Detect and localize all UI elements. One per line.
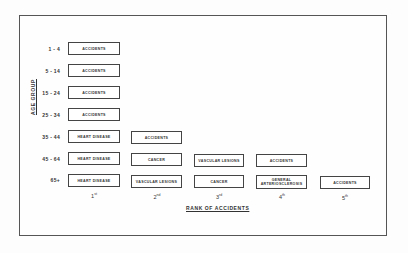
cause-box: ACCIDENTS	[68, 86, 120, 99]
x-axis-title: RANK OF ACCIDENTS	[186, 205, 249, 211]
cause-box: CANCER	[131, 153, 182, 166]
cause-box: ACCIDENTS	[68, 64, 120, 77]
cause-box: CANCER	[194, 175, 244, 188]
cause-box: ACCIDENTS	[131, 131, 182, 144]
cause-box: ACCIDENTS	[68, 42, 120, 55]
cause-box: HEART DISEASE	[68, 174, 120, 187]
rank-label: 3rd	[209, 193, 229, 200]
age-label: 65+	[20, 177, 60, 183]
age-label: 15 - 24	[20, 90, 60, 96]
cause-box: GENERAL ARTERIOSCLEROSIS	[256, 175, 307, 189]
rank-label: 2nd	[147, 193, 167, 200]
age-label: 35 - 44	[20, 134, 60, 140]
age-label: 25 - 34	[20, 112, 60, 118]
cause-box: ACCIDENTS	[68, 108, 120, 121]
cause-box: HEART DISEASE	[68, 130, 120, 143]
age-label: 1 - 4	[20, 46, 60, 52]
cause-box: ACCIDENTS	[256, 154, 307, 167]
rank-label: 5th	[335, 194, 355, 201]
age-label: 5 - 14	[20, 68, 60, 74]
cause-box: VASCULAR LESIONS	[194, 154, 244, 167]
age-label: 45 - 64	[20, 156, 60, 162]
rank-label: 1st	[84, 192, 104, 199]
y-axis-title: AGE GROUP	[30, 79, 36, 115]
cause-box: VASCULAR LESIONS	[131, 175, 182, 188]
rank-label: 4th	[272, 193, 292, 200]
cause-box: ACCIDENTS	[320, 176, 370, 189]
cause-box: HEART DISEASE	[68, 152, 120, 165]
